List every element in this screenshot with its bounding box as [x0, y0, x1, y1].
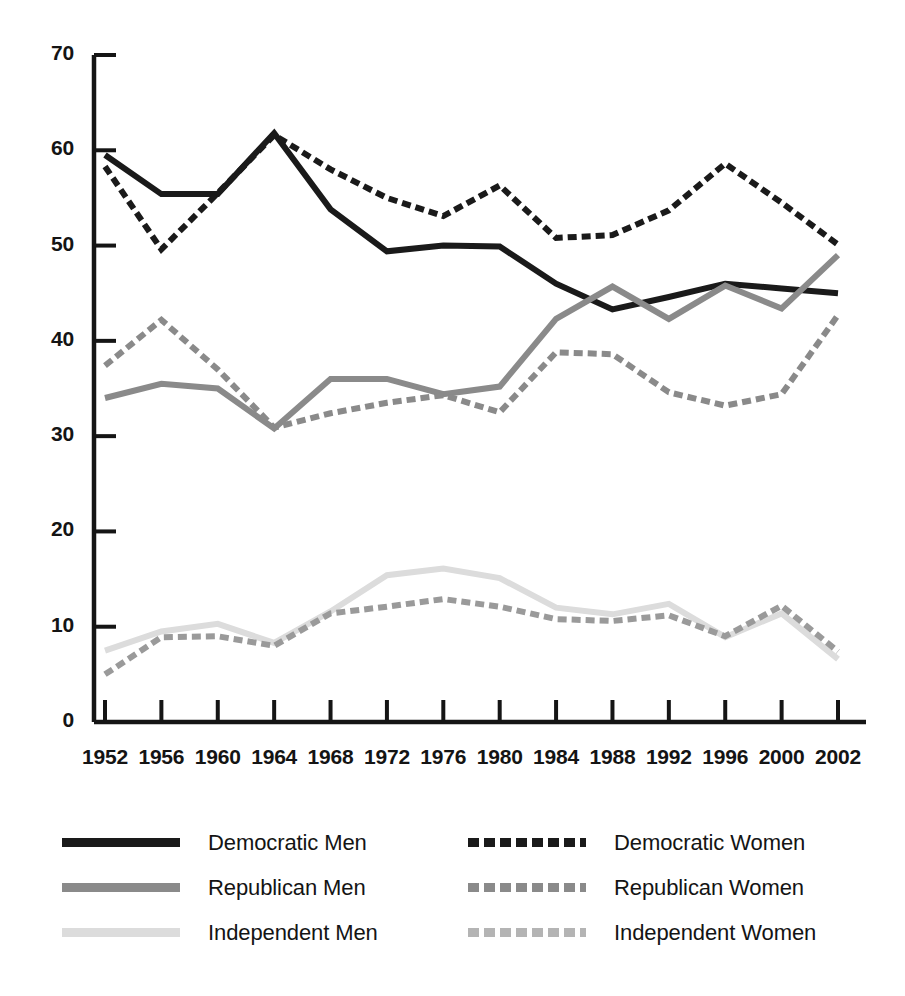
legend-item[interactable]: Democratic Men — [62, 820, 452, 865]
series-line-independent-men — [105, 569, 838, 660]
y-axis-tick-label: 70 — [34, 41, 74, 65]
y-axis-tick-label: 10 — [34, 613, 74, 637]
x-axis-tick-label: 1964 — [244, 745, 304, 769]
x-axis-tick-label: 1980 — [470, 745, 530, 769]
legend-item[interactable]: Democratic Women — [468, 820, 858, 865]
legend-column-women: Democratic WomenRepublican WomenIndepend… — [468, 820, 858, 955]
y-axis-tick-label: 30 — [34, 422, 74, 446]
legend-swatch-icon — [468, 883, 586, 892]
y-axis-tick-label: 40 — [34, 327, 74, 351]
series-line-republican-women — [105, 315, 838, 427]
x-axis-tick-label: 1960 — [188, 745, 248, 769]
legend-item[interactable]: Independent Men — [62, 910, 452, 955]
party-identification-line-chart: 706050403020100 195219561960196419681972… — [0, 0, 905, 996]
y-axis-tick-label: 20 — [34, 517, 74, 541]
chart-series-layer — [105, 133, 838, 674]
chart-legend: Democratic MenRepublican MenIndependent … — [56, 820, 856, 955]
x-axis-tick-label: 1992 — [639, 745, 699, 769]
y-axis-tick-label: 0 — [34, 708, 74, 732]
x-axis-tick-label: 1956 — [131, 745, 191, 769]
legend-item-label: Independent Women — [614, 920, 816, 946]
legend-item-label: Republican Men — [208, 875, 366, 901]
legend-item-label: Republican Women — [614, 875, 804, 901]
legend-item[interactable]: Republican Men — [62, 865, 452, 910]
legend-item-label: Democratic Women — [614, 830, 805, 856]
x-axis-tick-label: 1952 — [75, 745, 135, 769]
series-line-democratic-men — [105, 133, 838, 309]
x-axis-tick-label: 1988 — [582, 745, 642, 769]
legend-swatch-icon — [62, 883, 180, 892]
y-axis-tick-label: 60 — [34, 136, 74, 160]
x-axis-tick-label: 1984 — [526, 745, 586, 769]
x-axis-tick-label: 1976 — [413, 745, 473, 769]
series-line-independent-women — [105, 599, 838, 674]
x-axis-tick-label: 2000 — [752, 745, 812, 769]
x-axis-tick-label: 1972 — [357, 745, 417, 769]
x-axis-tick-label: 1996 — [695, 745, 755, 769]
legend-swatch-icon — [62, 838, 180, 847]
legend-swatch-icon — [468, 928, 586, 937]
legend-item[interactable]: Republican Women — [468, 865, 858, 910]
legend-item[interactable]: Independent Women — [468, 910, 858, 955]
legend-swatch-icon — [468, 838, 586, 847]
y-axis-tick-label: 50 — [34, 232, 74, 256]
x-axis-tick-label: 1968 — [301, 745, 361, 769]
legend-swatch-icon — [62, 928, 180, 937]
x-axis-tick-label: 2002 — [808, 745, 868, 769]
legend-column-men: Democratic MenRepublican MenIndependent … — [62, 820, 452, 955]
legend-item-label: Democratic Men — [208, 830, 367, 856]
legend-item-label: Independent Men — [208, 920, 378, 946]
